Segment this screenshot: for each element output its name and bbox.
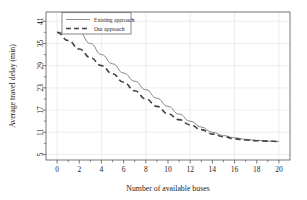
chart-legend: Existing approach Our approach [62, 13, 135, 35]
legend-label-ours: Our approach [94, 26, 125, 32]
x-tick-label: 8 [144, 165, 148, 174]
y-tick-label: 11 [36, 128, 45, 135]
x-tick-label: 12 [186, 165, 194, 174]
x-tick-label: 18 [253, 165, 261, 174]
x-tick-label: 10 [164, 165, 172, 174]
x-tick-label: 4 [100, 165, 104, 174]
y-tick-label: 5 [36, 152, 45, 156]
y-tick-label: 17 [36, 106, 45, 114]
x-tick-label: 14 [209, 165, 217, 174]
x-tick-label: 2 [77, 165, 81, 174]
y-tick-label: 35 [36, 39, 45, 47]
x-tick-label: 0 [55, 165, 59, 174]
x-tick-label: 16 [231, 165, 239, 174]
x-axis-title: Number of available buses [126, 184, 209, 193]
x-tick-label: 20 [275, 165, 283, 174]
y-tick-label: 41 [36, 17, 45, 25]
y-axis-title: Average travel delay (min) [8, 44, 17, 128]
chart-figure: 02468101214161820 5111723293541 Number o… [0, 0, 307, 200]
x-tick-label: 6 [122, 165, 126, 174]
line-chart: 02468101214161820 5111723293541 Number o… [0, 0, 307, 200]
legend-label-existing: Existing approach [94, 17, 135, 23]
y-tick-label: 29 [36, 62, 45, 70]
y-tick-label: 23 [36, 84, 45, 92]
